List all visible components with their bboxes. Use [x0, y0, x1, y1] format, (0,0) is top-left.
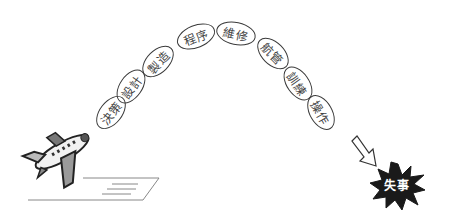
runway-icon: [28, 178, 159, 200]
arrow-down-right-icon: [352, 136, 376, 166]
airplane-icon: [21, 119, 105, 198]
diagram-canvas: 決策 設計 製造 程序 維修 航管 訓練 操作 失事: [0, 0, 452, 219]
accident-label: 失事: [377, 176, 417, 193]
